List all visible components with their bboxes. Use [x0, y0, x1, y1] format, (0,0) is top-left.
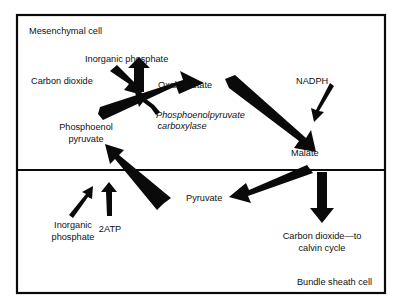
- label-phosphoenol-line1: Phosphoenol: [59, 122, 113, 132]
- label-two-atp: 2ATP: [99, 224, 121, 234]
- label-oxaloacetate: Oxaloacetate: [158, 80, 212, 90]
- label-inorganic-phosphate-bottom-line2: phosphate: [52, 232, 95, 242]
- arrow-pyruvate-to-pep: [105, 144, 171, 210]
- diagram-canvas: Mesenchymal cell Inorganic phosphate Car…: [0, 0, 402, 306]
- arrow-nadph-to-malate: [311, 83, 334, 122]
- label-carbon-dioxide-in: Carbon dioxide: [31, 76, 93, 86]
- label-bundle-sheath-cell: Bundle sheath cell: [297, 277, 372, 287]
- label-malate: Malate: [291, 148, 319, 158]
- label-enzyme-line1: Phosphoenolpyruvate: [156, 110, 245, 120]
- label-inorganic-phosphate-top: Inorganic phosphate: [85, 54, 168, 64]
- label-pyruvate: Pyruvate: [186, 193, 222, 203]
- arrow-atp-input: [101, 182, 117, 216]
- arrow-inorganic-phosphate-input: [69, 186, 93, 218]
- c4-pathway-diagram: Mesenchymal cell Inorganic phosphate Car…: [0, 0, 402, 306]
- label-carbon-dioxide-out-line1: Carbon dioxide—to: [283, 231, 362, 241]
- label-enzyme-line2: carboxylase: [157, 121, 206, 131]
- label-carbon-dioxide-out-line2: calvin cycle: [299, 243, 346, 253]
- label-inorganic-phosphate-bottom-line1: Inorganic: [54, 220, 92, 230]
- arrow-carbon-dioxide-to-calvin: [310, 172, 334, 223]
- label-nadph: NADPH: [296, 76, 328, 86]
- label-mesenchymal-cell: Mesenchymal cell: [29, 26, 102, 36]
- label-phosphoenol-line2: pyruvate: [68, 134, 103, 144]
